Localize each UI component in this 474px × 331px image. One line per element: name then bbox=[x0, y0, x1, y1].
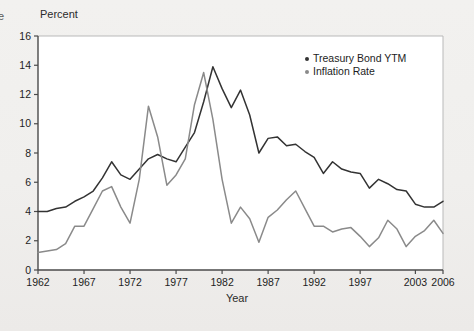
y-axis-tick-label: 2 bbox=[25, 234, 31, 246]
legend-label: Inflation Rate bbox=[313, 65, 375, 78]
chart-container: Percent 02468101214161962196719721977198… bbox=[0, 0, 474, 331]
y-axis-tick-label: 0 bbox=[25, 264, 31, 276]
y-axis-tick-label: 12 bbox=[19, 88, 31, 100]
x-axis-tick-label: 1992 bbox=[302, 276, 326, 288]
legend-marker-dot bbox=[305, 57, 309, 61]
x-axis-tick-label: 2003 bbox=[404, 276, 428, 288]
legend-marker-dot bbox=[305, 70, 309, 74]
y-axis-tick-label: 10 bbox=[19, 117, 31, 129]
x-axis-tick-label: 1962 bbox=[26, 276, 50, 288]
x-axis-tick-label: 1977 bbox=[164, 276, 188, 288]
y-axis-tick-label: 14 bbox=[19, 59, 31, 71]
x-axis-tick-label: 1972 bbox=[118, 276, 142, 288]
chart-legend: Treasury Bond YTM Inflation Rate bbox=[305, 52, 406, 78]
x-axis-title: Year bbox=[0, 292, 474, 304]
x-axis-tick-label: 1987 bbox=[256, 276, 280, 288]
y-axis-tick-label: 4 bbox=[25, 205, 31, 217]
legend-label: Treasury Bond YTM bbox=[313, 52, 406, 65]
x-axis-tick-label: 2006 bbox=[431, 276, 455, 288]
x-axis-tick-label: 1997 bbox=[348, 276, 372, 288]
y-axis-tick-label: 6 bbox=[25, 176, 31, 188]
y-axis-tick-label: 8 bbox=[25, 147, 31, 159]
x-axis-tick-label: 1967 bbox=[72, 276, 96, 288]
plot-area: 0246810121416196219671972197719821987199… bbox=[0, 0, 474, 331]
legend-item-inflation-rate[interactable]: Inflation Rate bbox=[305, 65, 406, 78]
x-axis-tick-label: 1982 bbox=[210, 276, 234, 288]
y-axis-tick-label: 16 bbox=[19, 30, 31, 42]
legend-item-treasury-bond-ytm[interactable]: Treasury Bond YTM bbox=[305, 52, 406, 65]
